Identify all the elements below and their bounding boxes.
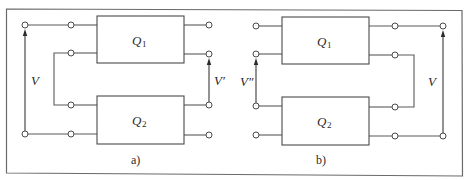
panel-b-caption: b) [316,153,326,167]
terminal-icon [68,50,74,56]
arrow-up-icon [207,58,211,65]
two-port-series-connection-diagram: Q1 Q2 V V′ a) Q [0,0,468,180]
arrow-up-icon [23,29,27,36]
terminal-icon [206,102,212,108]
terminal-icon [68,131,74,137]
terminal-icon [392,23,398,29]
terminal-icon [253,23,259,29]
arrow-up-icon [441,30,445,37]
terminal-icon [392,52,398,58]
terminal-icon [392,133,398,139]
terminal-icon [440,133,446,139]
terminal-icon [206,22,212,28]
voltage-label-b-v: V [428,74,438,89]
wire-a-series-link [54,53,71,105]
terminal-icon [253,51,259,57]
terminal-icon [440,23,446,29]
terminal-icon [253,103,259,109]
arrow-up-icon [254,58,258,65]
panel-a: Q1 Q2 V V′ a) [22,16,225,167]
figure-frame [7,9,463,176]
terminal-icon [392,104,398,110]
terminal-icon [206,132,212,138]
terminal-icon [22,131,28,137]
panel-b: Q1 Q2 V″ V b) [240,17,446,167]
terminal-icon [253,132,259,138]
voltage-label-b-vdoubleprime: V″ [240,74,254,89]
terminal-icon [68,102,74,108]
wire-b-series-link [395,55,414,107]
panel-a-caption: a) [131,153,140,167]
terminal-icon [68,22,74,28]
voltage-label-a-vprime: V′ [214,73,225,88]
terminal-icon [22,22,28,28]
terminal-icon [206,51,212,57]
voltage-label-a-v: V [31,73,41,88]
